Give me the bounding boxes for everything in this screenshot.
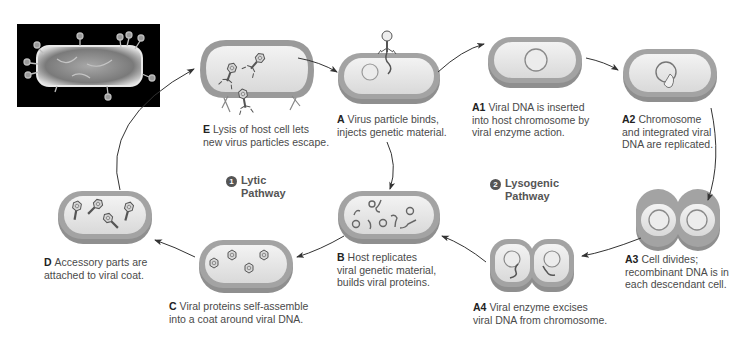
arrow-c-to-d	[155, 240, 195, 257]
caption-text: viral enzyme action.	[472, 126, 589, 139]
arrow-a-to-a1	[438, 44, 484, 72]
arrow-a1-to-a2	[586, 58, 618, 70]
caption-text: viral DNA from chromosome.	[473, 314, 607, 327]
caption-text: attached to viral coat.	[44, 269, 147, 282]
pathway-title: Lytic	[241, 174, 266, 186]
lysogenic-pathway-label: 2Lysogenic Pathway	[490, 177, 559, 203]
caption-text: recombinant DNA is in	[625, 266, 729, 279]
caption-text: new virus particles escape.	[203, 136, 329, 149]
caption-c: CViral proteins self-assemble into a coa…	[169, 300, 308, 325]
caption-a3: A3Cell divides; recombinant DNA is in ea…	[625, 253, 729, 291]
lifecycle-diagram	[0, 0, 749, 344]
pathway-title: Pathway	[490, 190, 559, 203]
caption-text: Cell divides;	[641, 253, 698, 265]
caption-text: Viral proteins self-assemble	[180, 300, 309, 312]
step-label: D	[44, 256, 52, 268]
cell-b-replicates	[338, 191, 440, 244]
caption-text: Lysis of host cell lets	[213, 123, 309, 135]
caption-a2: A2Chromosome and integrated viral DNA ar…	[622, 113, 713, 151]
step-label: A1	[472, 101, 485, 113]
caption-d: DAccessory parts are attached to viral c…	[44, 256, 147, 281]
arrow-a4-to-b	[442, 236, 486, 262]
caption-text: Host replicates	[348, 251, 417, 263]
caption-text: Accessory parts are	[55, 256, 148, 268]
lytic-pathway-label: 1Lytic Pathway	[226, 174, 286, 200]
cell-a3-divides	[636, 189, 720, 251]
step-label: A3	[625, 253, 638, 265]
arrow-d-to-e	[116, 69, 194, 190]
caption-text: Virus particle binds,	[348, 113, 439, 125]
cell-a2-replication	[623, 49, 717, 102]
number-badge-1: 1	[226, 176, 237, 187]
caption-a: AVirus particle binds, injects genetic m…	[337, 113, 447, 138]
cell-a-binding	[338, 31, 440, 104]
arrow-a-to-b	[387, 142, 393, 189]
caption-text: Viral DNA is inserted	[488, 101, 584, 113]
cell-c-assembly	[199, 240, 293, 293]
caption-text: into a coat around viral DNA.	[169, 313, 308, 326]
step-label: A4	[473, 301, 486, 313]
cell-a4-excision	[490, 239, 574, 292]
pathway-title: Lysogenic	[505, 177, 559, 189]
caption-text: injects genetic material.	[337, 126, 447, 139]
caption-e: ELysis of host cell lets new virus parti…	[203, 123, 329, 148]
pathway-title: Pathway	[226, 187, 286, 200]
cell-d-accessory	[58, 191, 152, 244]
caption-a4: A4Viral enzyme excises viral DNA from ch…	[473, 301, 607, 326]
caption-a1: A1Viral DNA is inserted into host chromo…	[472, 101, 589, 139]
caption-text: Viral enzyme excises	[489, 301, 587, 313]
caption-text: into host chromosome by	[472, 114, 589, 127]
caption-text: Chromosome	[638, 113, 701, 125]
caption-text: and integrated viral	[622, 126, 713, 139]
caption-b: BHost replicates viral genetic material,…	[337, 251, 436, 289]
step-label: C	[169, 300, 177, 312]
caption-text: each descendant cell.	[625, 278, 729, 291]
cell-a1-insertion	[488, 37, 582, 88]
cell-e-lysis	[200, 40, 314, 115]
number-badge-2: 2	[490, 179, 501, 190]
step-label: B	[337, 251, 345, 263]
caption-text: DNA are replicated.	[622, 138, 713, 151]
step-label: E	[203, 123, 210, 135]
step-label: A2	[622, 113, 635, 125]
caption-text: viral genetic material,	[337, 264, 436, 277]
step-label: A	[337, 113, 345, 125]
caption-text: builds viral proteins.	[337, 276, 436, 289]
